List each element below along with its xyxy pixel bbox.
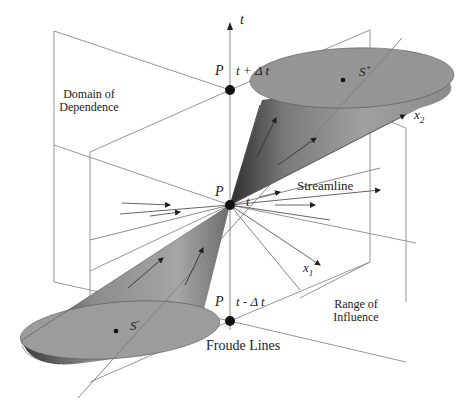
lower-cone: [18, 205, 230, 367]
point-P-bottom: [225, 316, 235, 326]
range-of-influence-line1: Range of: [334, 297, 378, 311]
x2-label: x2: [413, 107, 425, 125]
time-axis: [227, 22, 233, 330]
point-S-plus-center: [341, 78, 346, 83]
point-P-mid: [225, 200, 235, 210]
P-top-label: P: [214, 63, 224, 78]
froude-lines-label: Froude Lines: [206, 338, 280, 353]
t-axis-label: t: [240, 12, 245, 27]
diagram-canvas: t P t + Δ t P t P t - Δ t Domain of Depe…: [0, 0, 467, 402]
P-mid-label: P: [214, 184, 224, 199]
x1-label: x1: [302, 260, 313, 278]
t-minus-dt-label: t - Δ t: [236, 294, 265, 309]
point-P-top: [225, 85, 235, 95]
t-axis-arrow-icon: [227, 22, 233, 30]
point-S-minus-center: [114, 329, 119, 334]
streamline-label: Streamline: [297, 178, 354, 193]
range-of-influence-line2: Influence: [333, 310, 378, 324]
cone-diagram: t P t + Δ t P t P t - Δ t Domain of Depe…: [0, 0, 467, 402]
t-mid-label: t: [246, 194, 250, 209]
lower-ellipse-S-minus: [18, 293, 222, 366]
domain-of-dependence-line1: Domain of: [63, 87, 115, 101]
domain-of-dependence-line2: Dependence: [59, 100, 118, 114]
P-bottom-label: P: [214, 294, 224, 309]
t-plus-dt-label: t + Δ t: [236, 63, 270, 78]
